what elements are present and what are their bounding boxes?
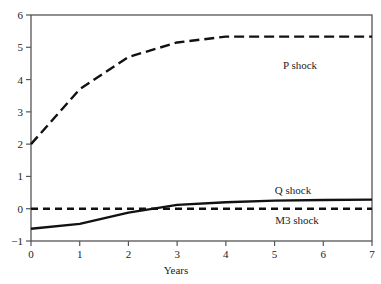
y-tick-label: 3 [18,106,24,118]
y-tick-label: 6 [18,9,24,21]
p-shock-label: P shock [283,59,318,71]
q-shock-label: Q shock [275,184,312,196]
x-axis-ticks: 01234567 [28,241,375,260]
y-tick-label: 1 [18,170,24,182]
p-shock-line [31,37,372,145]
x-tick-label: 1 [77,248,83,260]
q-shock-line [31,200,372,229]
x-tick-label: 4 [223,248,229,260]
line-chart: −10123456 01234567 P shock Q shock M3 sh… [0,0,381,284]
x-tick-label: 2 [126,248,132,260]
x-tick-label: 0 [28,248,34,260]
y-tick-label: 0 [18,203,24,215]
series-lines [31,37,372,229]
x-tick-label: 5 [272,248,278,260]
x-tick-label: 7 [369,248,375,260]
plot-frame [31,15,372,241]
y-tick-label: 4 [18,74,24,86]
y-tick-label: −1 [11,235,23,247]
x-tick-label: 3 [174,248,180,260]
y-axis-ticks: −10123456 [11,9,31,247]
m3-shock-label: M3 shock [275,214,319,226]
y-tick-label: 5 [18,41,24,53]
x-tick-label: 6 [321,248,327,260]
y-tick-label: 2 [18,138,24,150]
x-axis-label: Years [164,264,189,276]
